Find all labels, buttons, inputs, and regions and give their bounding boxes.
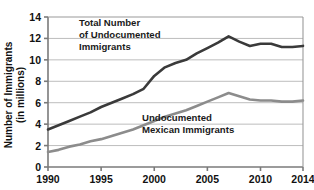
chart-container: 02468101214 199019952000200520102014 Num… bbox=[0, 0, 314, 190]
y-axis-tick-label: 6 bbox=[35, 97, 41, 109]
mexican-undocumented-label-line2: Mexican Immigrants bbox=[142, 124, 234, 135]
y-axis-tick-label: 14 bbox=[29, 11, 41, 23]
line-chart: 02468101214 199019952000200520102014 Num… bbox=[0, 0, 314, 190]
y-axis-tick-label: 12 bbox=[29, 32, 41, 44]
x-axis-tick-label: 1995 bbox=[89, 173, 113, 185]
x-axis-tick-label: 2000 bbox=[143, 173, 167, 185]
y-axis-tick-label: 10 bbox=[29, 54, 41, 66]
x-axis-tick-label: 1990 bbox=[36, 173, 60, 185]
y-axis-tick-label: 2 bbox=[35, 140, 41, 152]
x-axis-tick-label: 2005 bbox=[196, 173, 220, 185]
y-axis-tick-label: 8 bbox=[35, 75, 41, 87]
x-axis-tick-label: 2010 bbox=[249, 173, 273, 185]
y-axis-title-line2: (in millions) bbox=[15, 67, 26, 123]
total-undocumented-label-line2: of Undocumented bbox=[79, 29, 161, 40]
total-undocumented-label-line1: Total Number bbox=[79, 17, 140, 28]
mexican-undocumented-label-line1: Undocumented bbox=[142, 112, 212, 123]
y-axis-title-line1: Number of Immigrants bbox=[3, 41, 14, 148]
x-axis-tick-label: 2014 bbox=[291, 173, 314, 185]
total-undocumented-label-line3: Immigrants bbox=[79, 41, 131, 52]
x-axis-ticks: 199019952000200520102014 bbox=[36, 167, 314, 185]
y-axis-tick-label: 4 bbox=[35, 118, 41, 130]
y-axis-tick-label: 0 bbox=[35, 161, 41, 173]
y-axis-ticks: 02468101214 bbox=[29, 11, 48, 173]
